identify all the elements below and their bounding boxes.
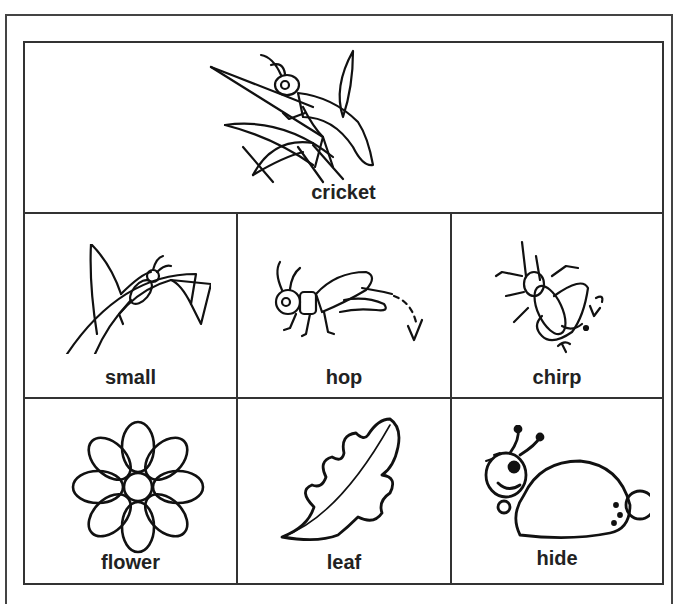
vocabulary-card-grid: cricket small hop	[23, 41, 664, 585]
card-label: small	[25, 366, 236, 389]
hopping-cricket-icon	[266, 242, 426, 352]
card-hide: hide	[452, 399, 662, 583]
card-label: flower	[25, 551, 236, 574]
small-cricket-on-grass-icon	[61, 244, 211, 354]
card-cricket: cricket	[25, 43, 662, 214]
hiding-bug-icon	[480, 425, 650, 545]
card-label: leaf	[238, 551, 450, 574]
oak-leaf-icon	[278, 417, 414, 547]
flower-icon	[70, 419, 206, 555]
card-leaf: leaf	[238, 399, 452, 583]
card-chirp: chirp	[452, 214, 662, 399]
card-label: cricket	[25, 181, 662, 204]
card-hop: hop	[238, 214, 452, 399]
cricket-on-grass-icon	[203, 47, 403, 187]
card-flower: flower	[25, 399, 238, 583]
card-label: chirp	[452, 366, 662, 389]
card-small: small	[25, 214, 238, 399]
card-label: hide	[452, 547, 662, 570]
card-label: hop	[238, 366, 450, 389]
chirping-cricket-icon	[492, 236, 622, 356]
